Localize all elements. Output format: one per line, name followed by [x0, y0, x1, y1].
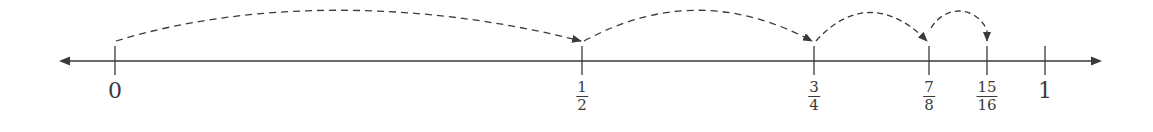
jump-arc-0-to-half: [116, 10, 581, 41]
numerator: 7: [923, 80, 935, 97]
label-fifteen-sixteenths: 15 16: [976, 80, 997, 113]
label-three-quarters: 3 4: [808, 80, 820, 113]
label-one: 1: [1038, 80, 1052, 102]
label-seven-eighths: 7 8: [923, 80, 935, 113]
denominator: 4: [809, 97, 819, 113]
denominator: 2: [577, 97, 587, 113]
right-arrow-icon: [1091, 57, 1102, 66]
numerator: 1: [576, 80, 588, 97]
numerator: 15: [976, 80, 997, 97]
denominator: 8: [924, 97, 934, 113]
jump-arc-three-quarters-to-seven-eighths: [816, 13, 927, 42]
label-one-half: 1 2: [576, 80, 588, 113]
left-arrow-icon: [59, 57, 70, 66]
numerator: 3: [808, 80, 820, 97]
denominator: 16: [977, 97, 996, 113]
label-zero: 0: [108, 80, 122, 102]
jump-arc-seven-eighths-to-fifteen-sixteenths: [931, 11, 987, 41]
jump-arc-half-to-three-quarters: [584, 10, 812, 41]
number-line-diagram: 0 1 2 3 4 7 8 15 16 1: [0, 0, 1153, 132]
